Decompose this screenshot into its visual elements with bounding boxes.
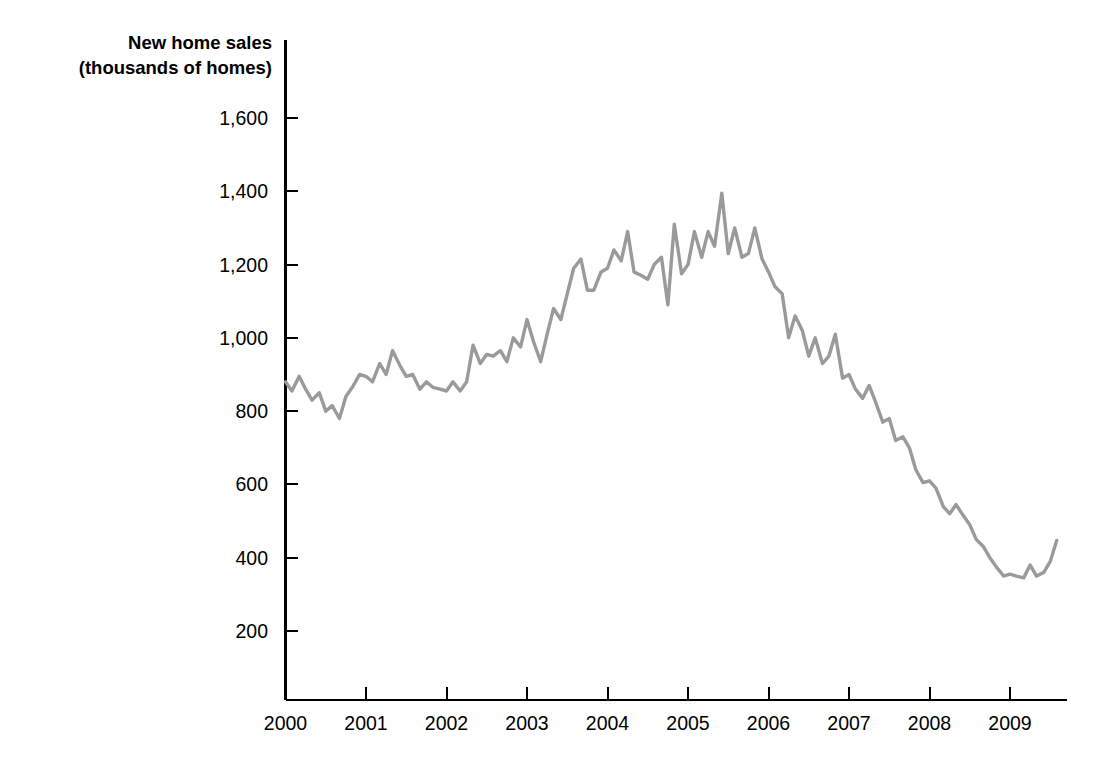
y-axis-title-line2: (thousands of homes) (79, 57, 272, 78)
x-tick-label: 2007 (827, 712, 870, 734)
y-tick-label: 1,000 (219, 327, 268, 349)
x-tick-label: 2009 (988, 712, 1031, 734)
x-tick-label: 2002 (425, 712, 468, 734)
y-tick-label: 200 (235, 620, 268, 642)
x-tick-label: 2000 (264, 712, 308, 734)
y-tick-label: 1,400 (219, 180, 268, 202)
y-tick-label: 800 (235, 400, 268, 422)
x-tick-label: 2006 (747, 712, 790, 734)
y-tick-label: 600 (235, 473, 268, 495)
x-tick-label: 2004 (586, 712, 630, 734)
y-tick-label: 400 (235, 547, 268, 569)
new-home-sales-series (286, 193, 1057, 578)
axis-title-group: New home sales (thousands of homes) (79, 32, 272, 78)
x-tick-label: 2005 (666, 712, 710, 734)
x-tick-label: 2003 (505, 712, 548, 734)
x-tick-label: 2008 (908, 712, 951, 734)
new-home-sales-line-chart: New home sales (thousands of homes) 2004… (0, 0, 1105, 783)
x-axis-ticks: 2000200120022003200420052006200720082009 (264, 687, 1032, 734)
y-tick-label: 1,200 (219, 254, 268, 276)
y-tick-label: 1,600 (219, 107, 268, 129)
chart-container: New home sales (thousands of homes) 2004… (0, 0, 1105, 783)
y-axis-title-line1: New home sales (128, 32, 272, 53)
x-tick-label: 2001 (344, 712, 387, 734)
